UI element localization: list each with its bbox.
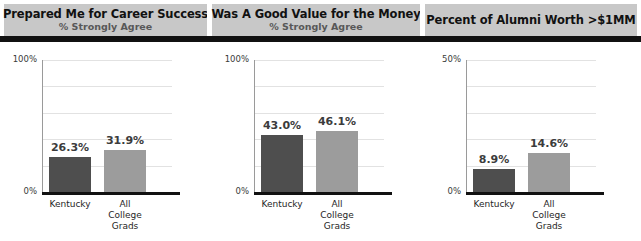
y-tick-label-max: 100% [214,54,249,64]
chart-panel-2: 50%0%8.9%Kentucky14.6%AllCollegeGrads [424,46,641,241]
bar-value-label: 43.0% [252,119,312,132]
bar-value-label: 31.9% [95,134,155,147]
header-right-margin [637,4,641,36]
bar-value-label: 26.3% [40,141,100,154]
panel-header-1: Was A Good Value for the Money % Strongl… [212,4,420,36]
panel-subtitle-0: % Strongly Agree [59,21,152,33]
y-axis [42,60,43,192]
chart-panels: 100%0%26.3%Kentucky31.9%AllCollegeGrads … [0,46,641,241]
y-tick-label-max: 50% [426,54,461,64]
bar-all-college-grads [528,153,570,192]
y-tick-label-zero: 0% [214,186,249,196]
bar-all-college-grads [316,131,358,192]
gridline [254,113,384,114]
chart-panel-0: 100%0%26.3%Kentucky31.9%AllCollegeGrads [0,46,212,241]
category-label: AllCollegeGrads [302,199,372,232]
bar-value-label: 14.6% [519,137,579,150]
y-tick-label-zero: 0% [426,186,461,196]
x-axis-baseline [254,192,392,195]
gridline [42,113,172,114]
y-tick-label-max: 100% [2,54,37,64]
chart-page: Prepared Me for Career Success % Strongl… [0,0,641,241]
y-tick-label-zero: 0% [2,186,37,196]
gridline [42,60,172,61]
bar-kentucky [473,169,515,192]
chart-panel-1: 100%0%43.0%Kentucky46.1%AllCollegeGrads [212,46,424,241]
x-axis-baseline [42,192,180,195]
panel-title-2: Percent of Alumni Worth >$1MM [426,14,635,27]
bar-kentucky [49,157,91,192]
gridline [466,86,596,87]
panel-header-band: Prepared Me for Career Success % Strongl… [0,4,641,36]
panel-header-0: Prepared Me for Career Success % Strongl… [4,4,207,36]
panel-subtitle-1: % Strongly Agree [269,21,362,33]
gridline [254,60,384,61]
gridline [254,86,384,87]
category-label: AllCollegeGrads [90,199,160,232]
bar-value-label: 8.9% [464,153,524,166]
gridline [42,86,172,87]
bar-kentucky [261,135,303,192]
x-axis-baseline [466,192,604,195]
gridline [466,60,596,61]
gridline [466,113,596,114]
panel-header-2: Percent of Alumni Worth >$1MM [425,4,637,36]
y-axis [466,60,467,192]
panel-title-0: Prepared Me for Career Success [3,8,208,21]
header-rule [0,36,641,42]
bar-all-college-grads [104,150,146,192]
category-label: AllCollegeGrads [514,199,584,232]
bar-value-label: 46.1% [307,115,367,128]
panel-title-1: Was A Good Value for the Money [211,8,420,21]
